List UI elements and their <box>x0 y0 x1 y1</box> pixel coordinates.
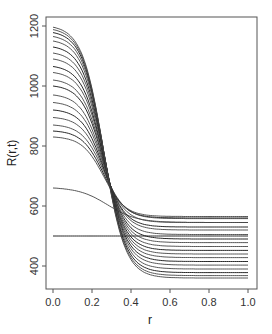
curve-t16 <box>53 41 248 265</box>
y-tick-label: 1000 <box>28 74 40 98</box>
x-tick-label: 1.0 <box>240 296 255 308</box>
x-axis: 0.00.20.40.60.81.0 <box>45 289 255 308</box>
curve-t3 <box>53 131 248 218</box>
curve-t6 <box>53 110 248 227</box>
curve-t18 <box>53 33 248 273</box>
y-axis: 40060080010001200 <box>28 14 46 275</box>
y-axis-title: R(r,t) <box>5 140 19 167</box>
y-tick-label: 1200 <box>28 14 40 38</box>
curve-t8 <box>53 95 248 235</box>
curve-t7 <box>53 103 248 231</box>
curve-t15 <box>53 47 248 262</box>
y-tick-label: 600 <box>28 197 40 215</box>
x-axis-title: r <box>148 313 152 327</box>
curve-t13 <box>53 59 248 254</box>
x-tick-label: 0.0 <box>45 296 60 308</box>
y-tick-label: 400 <box>28 257 40 275</box>
x-tick-label: 0.2 <box>84 296 99 308</box>
x-tick-label: 0.4 <box>123 296 138 308</box>
y-tick-label: 800 <box>28 137 40 155</box>
x-tick-label: 0.6 <box>162 296 177 308</box>
curve-t2 <box>53 137 248 217</box>
x-tick-label: 0.8 <box>201 296 216 308</box>
curve-t4 <box>53 125 248 219</box>
line-chart: 0.00.20.40.60.81.0 40060080010001200 r R… <box>0 0 272 334</box>
curve-group <box>53 27 248 278</box>
curve-t5 <box>53 118 248 223</box>
